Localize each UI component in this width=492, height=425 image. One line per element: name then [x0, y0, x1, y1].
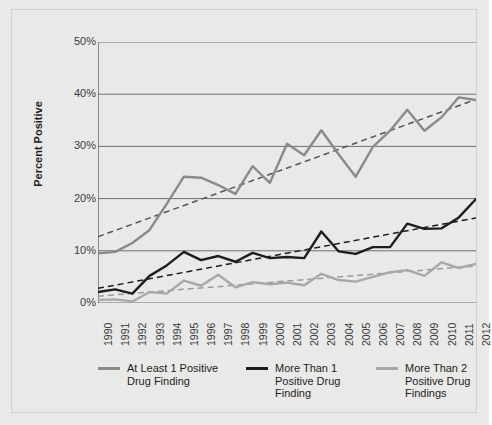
- x-tick-label: 1992: [136, 323, 148, 346]
- legend-line-swatch: [98, 367, 120, 370]
- y-axis-tick-labels: 0%10%20%30%40%50%: [50, 10, 96, 310]
- y-tick-label: 0%: [56, 297, 96, 308]
- legend-line-swatch: [246, 367, 268, 370]
- data-line-series-2: [98, 262, 476, 301]
- x-axis-tick-labels: 1990199119921993199419951996199719981999…: [98, 306, 476, 354]
- chart-plot-svg: [98, 42, 476, 303]
- x-tick-label: 2010: [446, 323, 458, 346]
- x-tick-label: 2004: [343, 323, 355, 346]
- y-tick-label: 20%: [56, 193, 96, 204]
- legend-label: At Least 1 PositiveDrug Finding: [127, 362, 218, 387]
- x-tick-label: 2005: [360, 323, 372, 346]
- legend-entry[interactable]: More Than 1Positive DrugFinding: [246, 362, 340, 400]
- y-tick-label: 30%: [56, 140, 96, 151]
- x-tick-label: 2011: [463, 323, 475, 346]
- x-tick-label: 2002: [308, 323, 320, 346]
- legend-line-swatch: [376, 367, 398, 370]
- y-axis-title: Percent Positive: [32, 74, 44, 214]
- x-tick-label: 1995: [188, 323, 200, 346]
- legend-label: More Than 2Positive DrugFindings: [405, 362, 470, 400]
- x-tick-label: 2000: [274, 323, 286, 346]
- trendline-series-0: [98, 99, 476, 236]
- chart-legend: At Least 1 PositiveDrug FindingMore Than…: [98, 362, 478, 418]
- plot-area: [98, 42, 476, 303]
- x-tick-label: 2008: [411, 323, 423, 346]
- x-tick-label: 2007: [394, 323, 406, 346]
- x-tick-label: 1994: [171, 323, 183, 346]
- legend-entry[interactable]: More Than 2Positive DrugFindings: [376, 362, 470, 400]
- x-tick-label: 2006: [377, 323, 389, 346]
- legend-label: More Than 1Positive DrugFinding: [275, 362, 340, 400]
- x-tick-label: 1991: [119, 323, 131, 346]
- x-tick-label: 2003: [325, 323, 337, 346]
- x-tick-label: 2001: [291, 323, 303, 346]
- data-line-series-1: [98, 199, 476, 293]
- chart-frame: Percent Positive 0%10%20%30%40%50% 19901…: [11, 9, 477, 413]
- x-tick-label: 2012: [480, 323, 492, 346]
- x-tick-label: 2009: [428, 323, 440, 346]
- x-tick-label: 1997: [222, 323, 234, 346]
- x-tick-label: 1996: [205, 323, 217, 346]
- x-tick-label: 1990: [102, 323, 114, 346]
- y-tick-label: 50%: [56, 36, 96, 47]
- x-tick-label: 1998: [239, 323, 251, 346]
- y-tick-label: 10%: [56, 245, 96, 256]
- x-tick-label: 1993: [154, 323, 166, 346]
- legend-entry[interactable]: At Least 1 PositiveDrug Finding: [98, 362, 218, 387]
- y-tick-label: 40%: [56, 88, 96, 99]
- x-tick-label: 1999: [257, 323, 269, 346]
